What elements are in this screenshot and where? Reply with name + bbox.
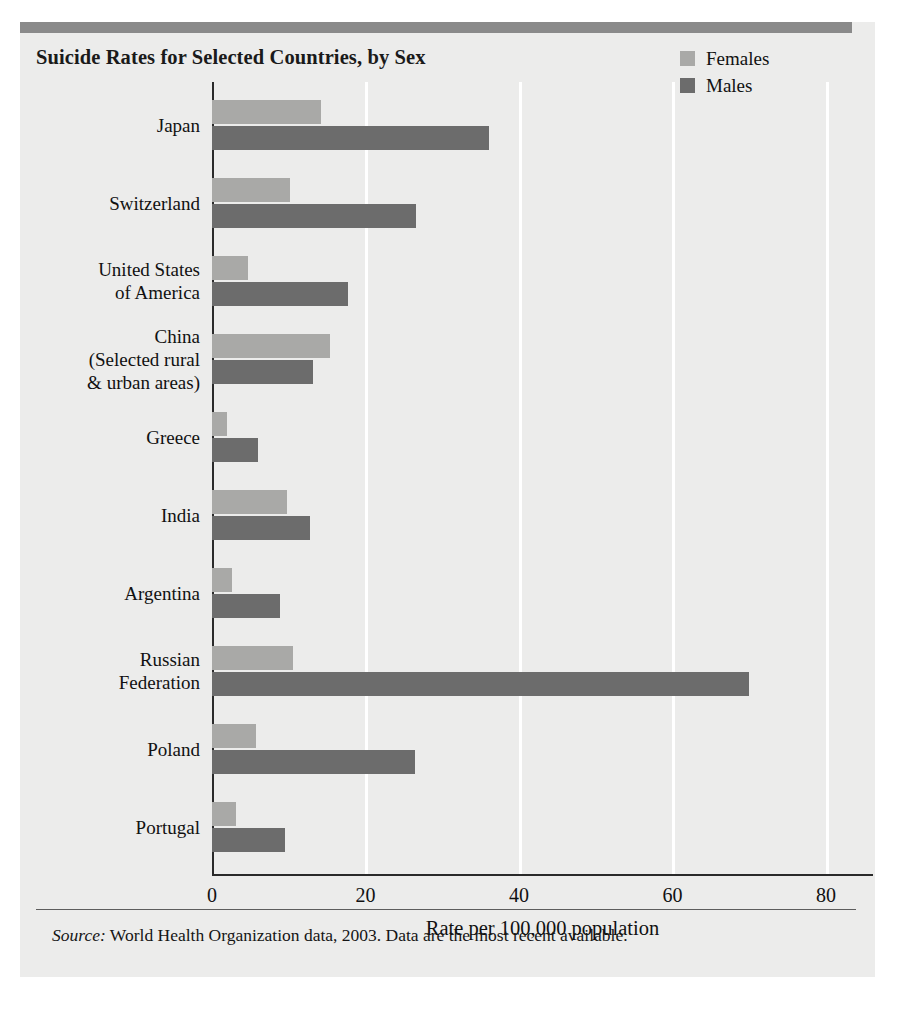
category-label: Greece (146, 426, 200, 449)
source-text: World Health Organization data, 2003. Da… (106, 925, 628, 945)
figure-panel: Suicide Rates for Selected Countries, by… (20, 22, 875, 977)
category-label: India (161, 504, 200, 527)
category-label: United States of America (98, 258, 200, 304)
bar-females (212, 646, 293, 670)
x-axis-line (212, 874, 873, 876)
x-tick-label: 0 (207, 884, 217, 907)
bar-group (212, 178, 872, 228)
chart-title: Suicide Rates for Selected Countries, by… (36, 46, 426, 69)
legend-label: Males (706, 75, 752, 97)
source-label: Source: (52, 925, 106, 945)
bar-group (212, 802, 872, 852)
plot-area (212, 88, 872, 868)
category-label: Argentina (124, 582, 200, 605)
bar-males (212, 828, 285, 852)
bar-group (212, 412, 872, 462)
category-label: Japan (157, 114, 200, 137)
figure-top-rule (20, 22, 852, 33)
bar-males (212, 204, 416, 228)
legend-label: Females (706, 48, 769, 70)
bar-females (212, 178, 290, 202)
bar-group (212, 724, 872, 774)
chart-legend: FemalesMales (680, 45, 769, 99)
category-label: Portugal (136, 816, 200, 839)
bar-females (212, 100, 321, 124)
bar-females (212, 802, 236, 826)
bar-males (212, 438, 258, 462)
legend-swatch-icon (680, 51, 695, 66)
bar-group (212, 490, 872, 540)
category-label: Poland (147, 738, 200, 761)
bar-males (212, 672, 749, 696)
bar-group (212, 100, 872, 150)
legend-item: Females (680, 45, 769, 72)
x-tick-label: 20 (355, 884, 375, 907)
bar-group (212, 256, 872, 306)
x-tick-label: 60 (662, 884, 682, 907)
bar-males (212, 282, 348, 306)
category-label: Switzerland (109, 192, 200, 215)
bar-group (212, 646, 872, 696)
bar-males (212, 360, 313, 384)
category-axis-labels: JapanSwitzerlandUnited States of America… (20, 88, 200, 868)
bar-group (212, 568, 872, 618)
bar-females (212, 724, 256, 748)
bar-males (212, 516, 310, 540)
source-divider (36, 909, 856, 910)
legend-swatch-icon (680, 78, 695, 93)
x-tick-label: 40 (509, 884, 529, 907)
bar-males (212, 126, 489, 150)
category-label: Russian Federation (119, 648, 200, 694)
x-tick-label: 80 (816, 884, 836, 907)
source-note: Source: World Health Organization data, … (52, 925, 628, 946)
bar-females (212, 490, 287, 514)
bar-males (212, 594, 280, 618)
legend-item: Males (680, 72, 769, 99)
bar-females (212, 412, 227, 436)
bar-females (212, 256, 248, 280)
bar-group (212, 334, 872, 384)
bar-females (212, 568, 232, 592)
bar-females (212, 334, 330, 358)
category-label: China (Selected rural & urban areas) (87, 325, 200, 394)
bar-males (212, 750, 415, 774)
